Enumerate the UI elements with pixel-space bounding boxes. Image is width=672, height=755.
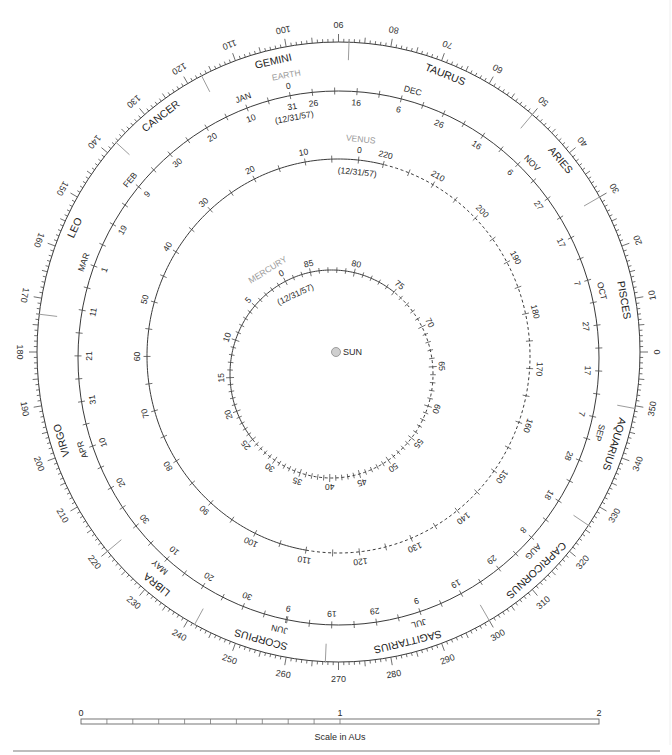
longitude-tick: [46, 266, 49, 267]
longitude-tick: [511, 606, 514, 611]
longitude-tick: [411, 48, 412, 51]
longitude-tick: [70, 507, 77, 511]
longitude-tick: [579, 164, 582, 166]
longitude-tick: [86, 177, 89, 179]
longitude-tick: [139, 586, 141, 588]
longitude-tick: [92, 534, 95, 536]
longitude-tick: [67, 493, 70, 494]
longitude-tick: [50, 250, 53, 251]
mercury-orbit-solid: [230, 270, 394, 439]
longitude-tick: [47, 260, 50, 261]
longitude-tick: [155, 600, 157, 603]
mercury-day-tick: [385, 284, 388, 289]
earth-day-label: 29: [485, 553, 499, 567]
longitude-label: 240: [170, 627, 188, 643]
longitude-tick: [205, 71, 206, 74]
longitude-tick: [270, 47, 271, 50]
longitude-tick: [427, 52, 428, 55]
longitude-tick: [605, 205, 608, 207]
zodiac-label-aries: ARIES: [546, 144, 575, 176]
longitude-tick: [573, 547, 575, 549]
longitude-tick: [127, 127, 129, 129]
longitude-tick: [291, 43, 292, 46]
mercury-day-tick: [317, 474, 318, 480]
longitude-tick: [275, 655, 276, 658]
mercury-day-tick: [273, 457, 277, 464]
longitude-tick: [456, 64, 457, 67]
longitude-tick: [280, 656, 281, 659]
mercury-day-tick: [341, 475, 342, 481]
longitude-tick: [516, 603, 518, 606]
mercury-day-label: 20: [222, 408, 235, 421]
orbit-diagram: 0 1 2 Scale in AUs 010203040506070809010…: [0, 0, 672, 755]
longitude-tick: [140, 589, 145, 595]
longitude-tick: [607, 493, 610, 494]
longitude-tick: [552, 129, 556, 133]
venus-day-label: 70: [139, 407, 151, 419]
earth-month-label: DEC: [403, 83, 423, 98]
mercury-day-label: 30: [263, 461, 277, 475]
venus-day-label: 170: [534, 362, 545, 377]
mercury-orbit-dashed: [253, 292, 433, 478]
longitude-tick: [135, 582, 137, 584]
longitude-tick: [184, 620, 188, 627]
longitude-tick: [50, 453, 53, 454]
longitude-tick: [265, 653, 266, 656]
longitude-tick: [540, 119, 542, 121]
venus-day-label: 50: [139, 293, 151, 305]
longitude-tick: [524, 596, 526, 599]
longitude-label: 270: [331, 674, 346, 684]
longitude-tick: [503, 89, 505, 92]
earth-date-tick: [593, 393, 600, 394]
longitude-tick: [98, 543, 101, 545]
venus-day-tick: [526, 341, 533, 342]
longitude-tick: [116, 138, 118, 140]
longitude-tick: [233, 643, 236, 651]
longitude-tick: [614, 225, 617, 226]
longitude-label: 0: [652, 349, 662, 354]
longitude-tick: [86, 525, 89, 527]
mercury-day-label: 35: [291, 475, 303, 488]
mercury-day-tick: [429, 366, 437, 367]
longitude-tick: [42, 422, 45, 423]
earth-date-tick: [108, 486, 114, 489]
longitude-tick: [401, 46, 402, 49]
sun: SUN: [332, 347, 363, 357]
longitude-tick: [205, 631, 206, 634]
earth-month-label: JUL: [410, 616, 428, 630]
longitude-tick: [285, 657, 286, 665]
longitude-tick: [622, 243, 630, 246]
longitude-tick: [442, 643, 445, 651]
longitude-tick: [229, 60, 230, 63]
earth-day-label: 27: [581, 321, 592, 332]
longitude-label: 250: [221, 652, 239, 667]
longitude-tick: [540, 582, 542, 584]
mercury-day-label: 75: [393, 278, 407, 292]
zodiac-label-sagittarius: SAGITTARIUS: [373, 628, 443, 656]
longitude-tick: [285, 39, 286, 47]
longitude-tick: [54, 463, 57, 464]
longitude-tick: [119, 134, 121, 136]
longitude-tick: [524, 105, 526, 108]
earth-date-tick: [76, 333, 83, 334]
longitude-tick: [77, 512, 80, 514]
mercury-day-label: 50: [386, 461, 400, 475]
zodiac-label-pisces: PISCES: [615, 280, 634, 320]
zodiac-boundary-line: [521, 114, 533, 129]
scale-bar-ticks: [107, 719, 340, 724]
venus-day-label: 120: [353, 556, 369, 568]
longitude-tick: [131, 123, 133, 125]
longitude-tick: [255, 51, 256, 54]
longitude-tick: [72, 200, 75, 202]
earth-day-label: 6: [505, 167, 516, 178]
mercury-day-tick: [246, 433, 251, 436]
longitude-tick: [566, 147, 568, 149]
mercury-day-tick: [284, 278, 288, 285]
venus-day-label: 40: [161, 240, 175, 254]
earth-date-tick: [110, 223, 116, 227]
longitude-tick: [121, 129, 125, 133]
earth-day-label: 16: [351, 97, 361, 108]
longitude-tick: [48, 458, 56, 461]
earth-day-label: 27: [532, 198, 546, 212]
earth-month-label: FEB: [121, 170, 140, 189]
